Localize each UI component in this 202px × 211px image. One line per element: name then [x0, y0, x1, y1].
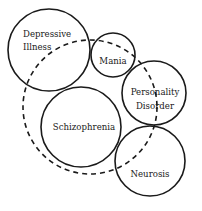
label-schizophrenia: Schizophrenia — [53, 122, 115, 132]
diagram-canvas: Depressive Illness Mania Personality Dis… — [0, 0, 202, 211]
label-mania: Mania — [99, 56, 126, 66]
label-depressive-line1: Depressive — [23, 29, 71, 39]
label-personality-line2: Disorder — [136, 101, 175, 111]
label-depressive-line2: Illness — [23, 42, 51, 52]
circle-mania — [91, 33, 135, 77]
label-personality-line1: Personality — [131, 87, 180, 97]
label-neurosis: Neurosis — [131, 169, 170, 179]
